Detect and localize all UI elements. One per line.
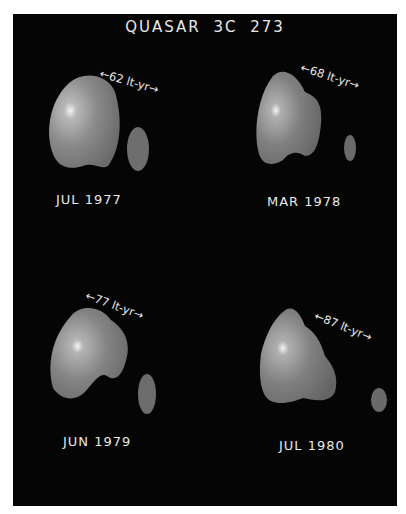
frame-date: MAR 1978: [267, 194, 341, 209]
frame-jun-1979: ←77 lt-yr→ JUN 1979: [23, 276, 213, 496]
frame-date: JUN 1979: [63, 434, 131, 449]
frame-jul-1980: ←87 lt-yr→ JUL 1980: [203, 276, 393, 496]
frame-mar-1978: ←68 lt-yr→ MAR 1978: [211, 44, 401, 264]
image-panel: QUASAR 3C 273 ←62 lt-yr→ JUL 1977: [13, 14, 397, 506]
frame-date: JUL 1980: [279, 438, 345, 453]
figure-title: QUASAR 3C 273: [13, 18, 397, 36]
radio-map-image: [211, 44, 401, 264]
frame-jul-1977: ←62 lt-yr→ JUL 1977: [23, 44, 213, 264]
frame-date: JUL 1977: [56, 192, 122, 207]
radio-map-image: [203, 276, 397, 496]
